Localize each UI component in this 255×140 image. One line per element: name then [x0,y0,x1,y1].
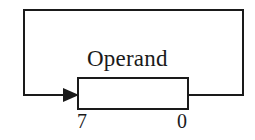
bit-index-msb-label: 7 [77,111,87,131]
operand-diagram: Operand 7 0 [0,0,255,140]
operand-register-box [78,78,188,109]
operand-register-label: Operand [87,47,168,70]
arrow-head-icon [63,88,79,102]
bit-index-lsb-label: 0 [177,111,187,131]
